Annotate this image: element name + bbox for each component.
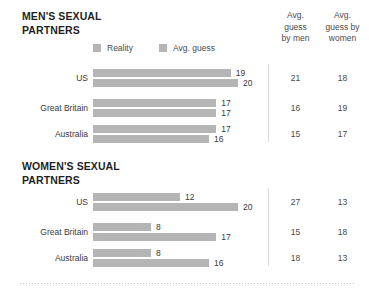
section-title-women-line1: WOMEN'S SEXUAL xyxy=(22,160,120,172)
bar-avg-guess xyxy=(93,135,209,143)
bar-value-label: 17 xyxy=(221,232,230,242)
table-row: 1619 xyxy=(272,103,366,113)
bar-avg-guess xyxy=(93,79,238,87)
section-title-men-line2: PARTNERS xyxy=(22,24,202,38)
legend-swatch-reality-icon xyxy=(93,44,101,52)
section-title-men-line1: MEN'S SEXUAL xyxy=(22,10,102,22)
bar-value-label: 12 xyxy=(185,192,194,202)
bar-row-label: Great Britain xyxy=(0,103,88,113)
section-title-women: WOMEN'S SEXUAL PARTNERS xyxy=(22,160,202,187)
bar-row-label: US xyxy=(0,73,88,83)
legend-swatch-avg-guess-icon xyxy=(159,44,167,52)
bar-row-label: US xyxy=(0,197,88,207)
column-header-men-line3: by men xyxy=(282,33,310,43)
column-header-women-line2: guess by xyxy=(325,22,359,32)
table-cell-guess-by-men: 15 xyxy=(272,129,319,139)
bar-value-label: 16 xyxy=(214,134,223,144)
section-title-women-line2: PARTNERS xyxy=(22,174,202,188)
bar-value-label: 8 xyxy=(156,248,161,258)
table-cell-guess-by-men: 15 xyxy=(272,227,319,237)
bar-row-label: Australia xyxy=(0,253,88,263)
legend-item-reality: Reality xyxy=(93,43,133,53)
column-header-men-line2: guess xyxy=(284,22,307,32)
bar-value-label: 17 xyxy=(221,108,230,118)
bar-row: Great Britain8171518 xyxy=(0,223,369,241)
bar-value-label: 17 xyxy=(221,98,230,108)
bar-reality xyxy=(93,69,231,77)
bar-value-label: 20 xyxy=(243,202,252,212)
column-header-women-line1: Avg. xyxy=(334,10,351,20)
table-cell-guess-by-men: 18 xyxy=(272,253,319,263)
bar-value-label: 19 xyxy=(236,68,245,78)
bar-value-label: 16 xyxy=(214,258,223,268)
table-cell-guess-by-women: 13 xyxy=(319,253,366,263)
table-cell-guess-by-men: 27 xyxy=(272,197,319,207)
table-cell-guess-by-women: 19 xyxy=(319,103,366,113)
column-header-men: Avg. guess by men xyxy=(272,10,319,45)
table-row: 1518 xyxy=(272,227,366,237)
table-cell-guess-by-women: 18 xyxy=(319,227,366,237)
table-cell-guess-by-men: 16 xyxy=(272,103,319,113)
table-cell-guess-by-women: 13 xyxy=(319,197,366,207)
bottom-dotted-divider xyxy=(20,283,356,284)
table-row: 2118 xyxy=(272,73,366,83)
column-header-women: Avg. guess by women xyxy=(319,10,366,45)
bar-value-label: 8 xyxy=(156,222,161,232)
bar-row-label: Australia xyxy=(0,129,88,139)
chart-page: Avg. guess by men Avg. guess by women ME… xyxy=(0,0,369,295)
bar-row: US12202713 xyxy=(0,193,369,211)
bar-reality xyxy=(93,249,151,257)
bar-avg-guess xyxy=(93,203,238,211)
bar-reality xyxy=(93,193,180,201)
bar-value-label: 17 xyxy=(221,124,230,134)
table-row: 1517 xyxy=(272,129,366,139)
bar-reality xyxy=(93,99,216,107)
table-cell-guess-by-women: 17 xyxy=(319,129,366,139)
bar-row: Australia17161517 xyxy=(0,125,369,143)
legend: Reality Avg. guess xyxy=(93,43,215,53)
bar-row: Australia8161813 xyxy=(0,249,369,267)
bar-reality xyxy=(93,223,151,231)
column-headers: Avg. guess by men Avg. guess by women xyxy=(272,10,366,45)
bar-avg-guess xyxy=(93,259,209,267)
bar-avg-guess xyxy=(93,109,216,117)
bar-row: US19202118 xyxy=(0,69,369,87)
bar-row: Great Britain17171619 xyxy=(0,99,369,117)
bar-avg-guess xyxy=(93,233,216,241)
bar-value-label: 20 xyxy=(243,78,252,88)
table-cell-guess-by-men: 21 xyxy=(272,73,319,83)
column-header-men-line1: Avg. xyxy=(287,10,304,20)
bar-reality xyxy=(93,125,216,133)
table-cell-guess-by-women: 18 xyxy=(319,73,366,83)
legend-item-avg-guess: Avg. guess xyxy=(159,43,215,53)
table-row: 2713 xyxy=(272,197,366,207)
legend-label-avg-guess: Avg. guess xyxy=(173,43,215,53)
column-header-women-line3: women xyxy=(329,33,356,43)
legend-label-reality: Reality xyxy=(107,43,133,53)
section-title-men: MEN'S SEXUAL PARTNERS xyxy=(22,10,202,37)
bar-row-label: Great Britain xyxy=(0,227,88,237)
table-row: 1813 xyxy=(272,253,366,263)
